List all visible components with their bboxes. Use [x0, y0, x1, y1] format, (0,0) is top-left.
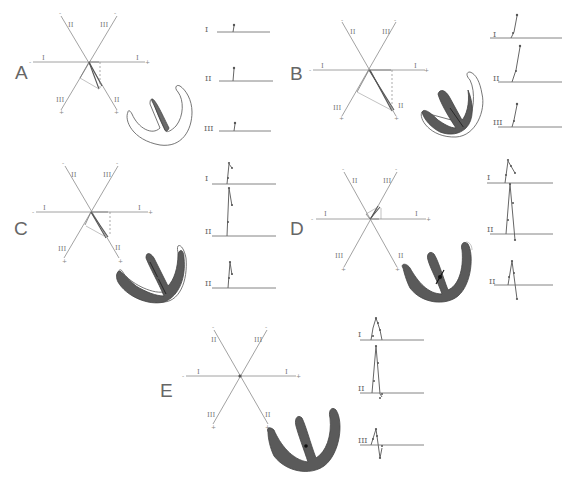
- ecg-lead-label-iii: II: [205, 279, 211, 288]
- ecg-traces-c: I II II: [0, 150, 290, 310]
- ecg-lead-label-ii: II: [358, 384, 364, 393]
- panel-b: B -+ -- ++ II III I I III II I II III: [290, 0, 572, 150]
- ecg-traces-d: I II II: [290, 150, 572, 310]
- panel-d: D -+ -- ++ II III I I III II I II II: [290, 150, 572, 310]
- ecg-lead-label-i: I: [487, 173, 490, 182]
- ecg-traces-a: I II III: [0, 0, 290, 150]
- ecg-lead-label-i: I: [205, 174, 208, 183]
- panel-e: E -+ -- ++ II III I I III II I II III: [140, 310, 440, 481]
- ecg-lead-label-iii: III: [204, 124, 213, 133]
- ecg-traces-e: I II III: [140, 310, 440, 481]
- ecg-traces-b: I II III: [290, 0, 572, 150]
- ecg-lead-label-i: I: [358, 330, 361, 339]
- panel-a: A -+ -- ++ I I II III III II I II III: [0, 0, 290, 150]
- ecg-lead-label-ii: II: [205, 74, 211, 83]
- ecg-lead-label-iii: III: [358, 436, 367, 445]
- ecg-lead-label-ii: II: [205, 227, 211, 236]
- ecg-lead-label-iii: III: [493, 118, 502, 127]
- panel-c: C -+ -- ++ II III I I III II I II II: [0, 150, 290, 310]
- ecg-lead-label-i: I: [205, 25, 208, 34]
- ecg-lead-label-ii: II: [487, 225, 493, 234]
